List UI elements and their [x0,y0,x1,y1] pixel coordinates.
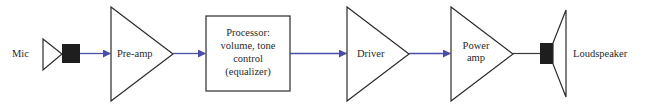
preamp-block: Pre-amp [111,7,173,101]
preamp-label: Pre-amp [117,48,153,59]
mic-body-icon [62,44,80,63]
driver-block: Driver [347,7,409,101]
processor-block: Processor: volume, tone control (equaliz… [206,16,290,91]
power-amp-label-line2: amp [467,52,485,63]
mic-label: Mic [12,48,29,59]
mic-icon [43,39,62,70]
loudspeaker-block: Loudspeaker [540,10,628,97]
mic-block: Mic [12,39,80,70]
processor-label-line3: control [233,53,263,64]
speaker-cone-icon [553,10,566,97]
power-amp-label-line1: Power [463,40,490,51]
signal-chain-diagram: Mic Pre-amp Processor: volume, tone cont… [0,0,648,108]
power-amp-block: Power amp [451,7,513,101]
driver-label: Driver [357,48,385,59]
speaker-magnet-icon [540,43,553,64]
processor-label-line2: volume, tone [221,40,276,51]
processor-label-line4: (equalizer) [225,66,271,78]
loudspeaker-label: Loudspeaker [573,48,628,59]
processor-label-line1: Processor: [226,27,270,38]
